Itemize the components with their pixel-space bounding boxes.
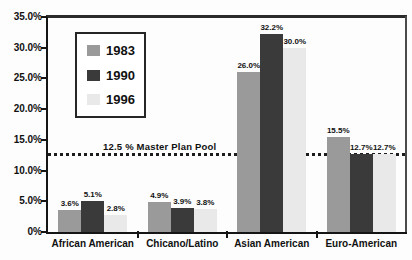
bar-value-label: 12.7% bbox=[364, 143, 404, 152]
y-tick-label: 35.0% bbox=[0, 11, 42, 23]
bar-1983 bbox=[58, 210, 81, 232]
legend-item: 1983 bbox=[87, 43, 144, 58]
bar-1996 bbox=[373, 154, 396, 232]
bar-1983 bbox=[237, 72, 260, 232]
x-tick bbox=[226, 231, 228, 238]
bar-value-label: 15.5% bbox=[318, 126, 358, 135]
x-tick bbox=[137, 231, 139, 238]
y-tick-label: 15.0% bbox=[0, 134, 42, 146]
y-tick-label: 0% bbox=[0, 226, 42, 238]
legend-label: 1990 bbox=[106, 68, 135, 83]
category-label: Chicano/Latino bbox=[138, 238, 228, 249]
y-tick-label: 20.0% bbox=[0, 103, 42, 115]
bar-1990 bbox=[350, 154, 373, 232]
y-tick-label: 10.0% bbox=[0, 165, 42, 177]
1996-swatch bbox=[87, 94, 100, 105]
bar-value-label: 5.1% bbox=[73, 190, 113, 199]
bar-value-label: 32.2% bbox=[252, 23, 292, 32]
master-plan-label: 12.5 % Master Plan Pool bbox=[103, 141, 216, 152]
bar-chart: 35.0%30.0%25.0%20.0%15.0%10.0%5.0%0% Afr… bbox=[0, 0, 412, 260]
bar-value-label: 3.8% bbox=[185, 198, 225, 207]
category-label: African American bbox=[48, 238, 138, 249]
plot-frame-right bbox=[405, 16, 407, 234]
legend-item: 1990 bbox=[87, 68, 144, 83]
1990-swatch bbox=[87, 70, 100, 81]
bar-value-label: 2.8% bbox=[96, 204, 136, 213]
x-tick bbox=[316, 231, 318, 238]
y-tick-label: 30.0% bbox=[0, 42, 42, 54]
bar-1990 bbox=[171, 208, 194, 232]
1983-swatch bbox=[87, 45, 100, 56]
bar-1996 bbox=[283, 48, 306, 232]
bar-1996 bbox=[104, 215, 127, 232]
legend-label: 1983 bbox=[106, 43, 135, 58]
legend-label: 1996 bbox=[106, 92, 135, 107]
bar-value-label: 30.0% bbox=[275, 37, 315, 46]
bar-1983 bbox=[148, 202, 171, 232]
y-tick-label: 25.0% bbox=[0, 72, 42, 84]
bar-1990 bbox=[260, 34, 283, 232]
legend-item: 1996 bbox=[87, 92, 144, 107]
category-label: Euro-American bbox=[317, 238, 407, 249]
y-tick-label: 5.0% bbox=[0, 195, 42, 207]
category-label: Asian American bbox=[227, 238, 317, 249]
bar-1996 bbox=[194, 209, 217, 232]
legend: 198319901996 bbox=[75, 32, 146, 118]
